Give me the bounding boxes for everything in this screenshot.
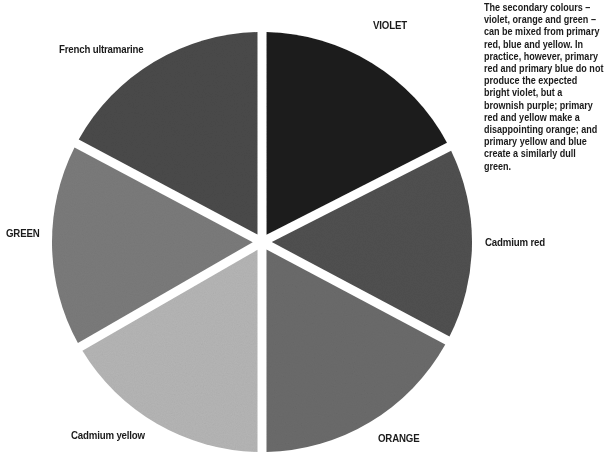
label-cadmium-red: Cadmium red [485, 236, 545, 248]
label-violet: VIOLET [373, 19, 407, 31]
label-cadmium-yellow: Cadmium yellow [71, 429, 145, 441]
caption-text: The secondary colours – violet, orange a… [484, 1, 604, 172]
label-french-ultramarine: French ultramarine [59, 43, 144, 55]
label-green: GREEN [6, 227, 40, 239]
label-orange: ORANGE [378, 432, 419, 444]
